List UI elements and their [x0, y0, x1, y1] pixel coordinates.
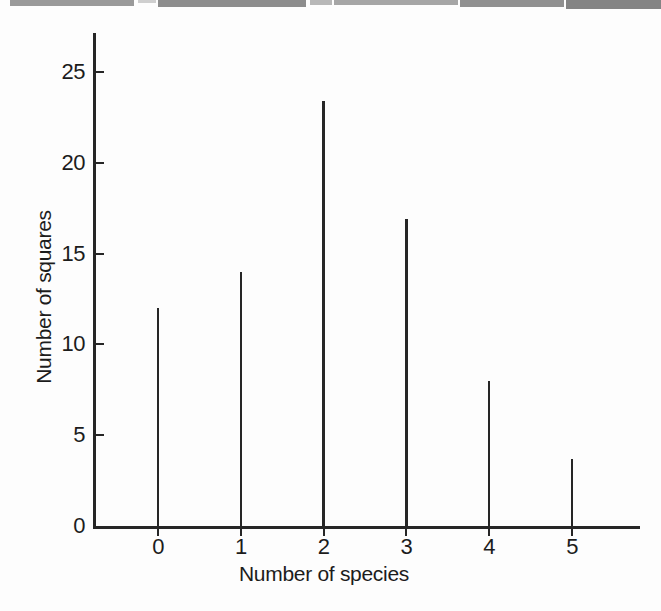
scan-edge-segment	[158, 0, 306, 7]
x-tick-label: 1	[219, 534, 263, 560]
data-spike	[488, 381, 491, 526]
scan-edge-segment	[460, 0, 564, 7]
x-tick-label: 4	[467, 534, 511, 560]
data-spike	[240, 272, 243, 526]
x-tick-label: 3	[384, 534, 428, 560]
y-axis-tick	[96, 253, 104, 255]
y-axis-tick	[96, 343, 104, 345]
y-tick-label: 0	[25, 514, 85, 538]
scan-edge-segment	[138, 0, 156, 3]
x-tick-label: 2	[302, 534, 346, 560]
y-axis-tick	[96, 162, 104, 164]
scan-edge-segment	[310, 0, 332, 5]
data-spike	[322, 101, 325, 526]
data-spike	[157, 308, 160, 526]
y-tick-label: 5	[25, 423, 85, 447]
y-axis-line	[93, 33, 96, 529]
y-axis-tick	[96, 434, 104, 436]
x-axis-title: Number of species	[239, 562, 409, 586]
x-tick-label: 5	[550, 534, 594, 560]
y-tick-label: 20	[25, 151, 85, 175]
scan-edge-segment	[10, 0, 134, 6]
scan-edge-segment	[334, 0, 458, 5]
data-spike	[405, 219, 408, 526]
y-axis-tick	[96, 71, 104, 73]
x-tick-label: 0	[136, 534, 180, 560]
y-tick-label: 25	[25, 60, 85, 84]
x-axis-line	[93, 526, 640, 529]
scan-edge-segment	[566, 0, 661, 9]
data-spike	[571, 459, 574, 526]
y-axis-title: Number of squares	[32, 210, 56, 383]
figure-canvas: 0510152025012345 Number of species Numbe…	[0, 0, 661, 611]
